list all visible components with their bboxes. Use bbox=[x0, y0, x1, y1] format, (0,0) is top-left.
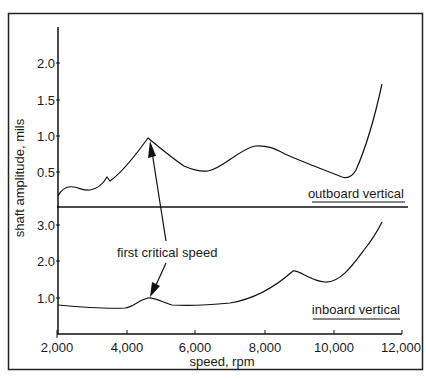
x-tick-label: 2,000 bbox=[41, 340, 74, 355]
y-tick-label: 3.0 bbox=[37, 218, 55, 233]
y-tick-label: 0.5 bbox=[37, 165, 55, 180]
y-tick-label: 1.0 bbox=[37, 291, 55, 306]
x-tick-labels: 2,000 4,000 6,000 8,000 10,000 12,000 bbox=[41, 340, 421, 355]
x-tick-label: 10,000 bbox=[314, 340, 354, 355]
x-tick-label: 4,000 bbox=[111, 340, 144, 355]
x-tick-label: 6,000 bbox=[179, 340, 212, 355]
x-tick-label: 12,000 bbox=[381, 340, 421, 355]
y-tick-label: 1.5 bbox=[37, 93, 55, 108]
lower-y-tick-labels: 3.0 2.0 1.0 bbox=[37, 218, 55, 306]
inboard-vertical-curve bbox=[58, 222, 382, 308]
y-tick-label: 2.0 bbox=[37, 56, 55, 71]
y-tick-label: 2.0 bbox=[37, 254, 55, 269]
inboard-vertical-label: inboard vertical bbox=[312, 302, 400, 317]
outboard-vertical-curve bbox=[58, 84, 382, 196]
arrow-to-outboard-peak-icon bbox=[148, 141, 166, 241]
outboard-vertical-label: outboard vertical bbox=[308, 186, 404, 201]
amplitude-vs-speed-chart: 2,000 4,000 6,000 8,000 10,000 12,000 sp… bbox=[0, 0, 426, 379]
first-critical-speed-annotation: first critical speed bbox=[117, 245, 217, 260]
arrow-to-inboard-peak-icon bbox=[150, 263, 166, 297]
x-axis-title: speed, rpm bbox=[189, 354, 254, 369]
x-tick-label: 8,000 bbox=[249, 340, 282, 355]
upper-y-tick-labels: 2.0 1.5 1.0 0.5 bbox=[37, 56, 55, 180]
y-tick-label: 1.0 bbox=[37, 129, 55, 144]
y-axis-title: shaft amplitude, mils bbox=[12, 118, 27, 237]
